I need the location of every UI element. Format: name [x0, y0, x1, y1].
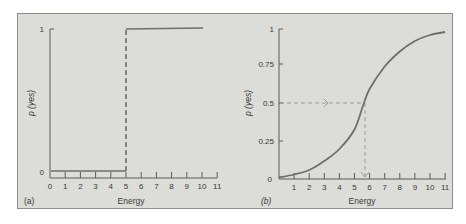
panel-a-x-tick-label: 5 [124, 182, 129, 191]
panel-b-x-tick-label: 3 [322, 183, 327, 192]
panel-b-x-tick-label: 8 [398, 183, 403, 192]
panel-a-x-title: Energy [118, 196, 146, 206]
panel-b-x-tick-labels: 1234567891011 [292, 183, 450, 192]
panel-a-x-tick-label: 4 [109, 182, 114, 191]
panel-b-x-tick-label: 5 [352, 183, 357, 192]
panel-a: 01234567891011 1 0 p (yes) Energy (a) [24, 25, 222, 206]
panel-a-y-title: p (yes) [26, 90, 36, 117]
panel-b-x-tick-label: 1 [292, 183, 297, 192]
panel-b-x-tick-label: 2 [307, 183, 312, 192]
panel-b-psychometric-curve [279, 32, 445, 178]
panel-b-x-tick-label: 4 [337, 183, 342, 192]
panel-b-y-label-075: 0.75 [258, 60, 274, 69]
panel-b-x-tick-label: 11 [441, 183, 450, 192]
panel-b-y-label-05: 0.5 [263, 99, 275, 108]
panel-a-x-tick-label: 9 [185, 182, 190, 191]
panel-a-x-tick-label: 6 [139, 182, 144, 191]
panel-a-y-label-1: 1 [40, 25, 45, 34]
panel-b-y-label-025: 0.25 [258, 137, 274, 146]
panel-a-x-tick-label: 10 [198, 182, 207, 191]
panel-b-x-title: Energy [349, 196, 377, 206]
panel-a-x-tick-label: 11 [213, 182, 222, 191]
panel-a-x-tick-label: 3 [93, 182, 98, 191]
panel-a-step-high [126, 28, 203, 29]
panel-a-x-tick-label: 0 [48, 182, 53, 191]
panel-b: 1234567891011 1 0.75 0.5 0.25 0 p (yes) … [243, 25, 450, 206]
panel-b-y-label-0: 0 [268, 175, 273, 184]
panel-a-x-tick-label: 1 [63, 182, 68, 191]
panel-a-x-ticks [65, 172, 217, 178]
panel-b-x-tick-label: 7 [382, 183, 387, 192]
panel-a-x-tick-labels: 01234567891011 [48, 182, 222, 191]
panel-a-x-tick-label: 2 [78, 182, 83, 191]
chart-canvas: 01234567891011 1 0 p (yes) Energy (a) 12… [0, 0, 466, 224]
panel-a-y-label-0: 0 [40, 168, 45, 177]
panel-b-x-ticks [294, 173, 445, 179]
panel-b-y-title: p (yes) [243, 90, 253, 117]
panel-b-x-tick-label: 10 [426, 183, 435, 192]
panel-b-x-tick-label: 6 [367, 183, 372, 192]
panel-a-label: (a) [24, 196, 35, 206]
panel-b-y-label-1: 1 [270, 25, 275, 34]
panel-b-label: (b) [261, 196, 272, 206]
panel-a-x-tick-label: 7 [154, 182, 159, 191]
panel-b-x-tick-label: 9 [413, 183, 418, 192]
panel-a-x-tick-label: 8 [169, 182, 174, 191]
